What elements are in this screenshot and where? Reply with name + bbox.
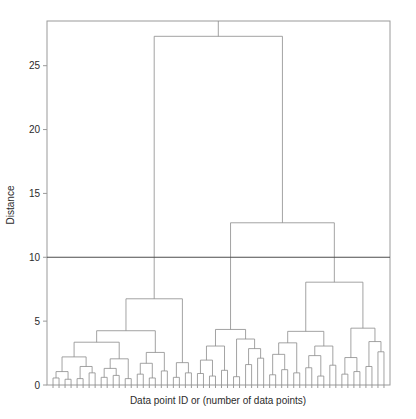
dendrogram-figure: 0510152025 Distance Data point ID or (nu… [0,0,416,419]
dendrogram-plot: 0510152025 Distance Data point ID or (nu… [0,0,416,419]
y-tick-label: 5 [34,316,40,327]
y-tick-label: 15 [29,188,41,199]
y-tick-label: 10 [29,252,41,263]
y-tick-label: 0 [34,380,40,391]
y-tick-label: 20 [29,124,41,135]
x-axis-title: Data point ID or (number of data points) [130,395,306,406]
y-axis-title: Distance [5,185,16,224]
y-tick-label: 25 [29,60,41,71]
plot-background [0,0,416,419]
